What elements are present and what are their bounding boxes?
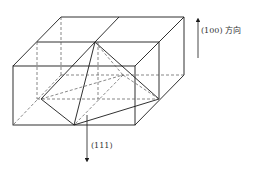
direction-111-label: (111) bbox=[91, 141, 113, 150]
box-hidden-edges bbox=[13, 17, 184, 125]
direction-100-label: (100) 方向 bbox=[201, 24, 241, 35]
box-solid-edges bbox=[13, 17, 184, 125]
